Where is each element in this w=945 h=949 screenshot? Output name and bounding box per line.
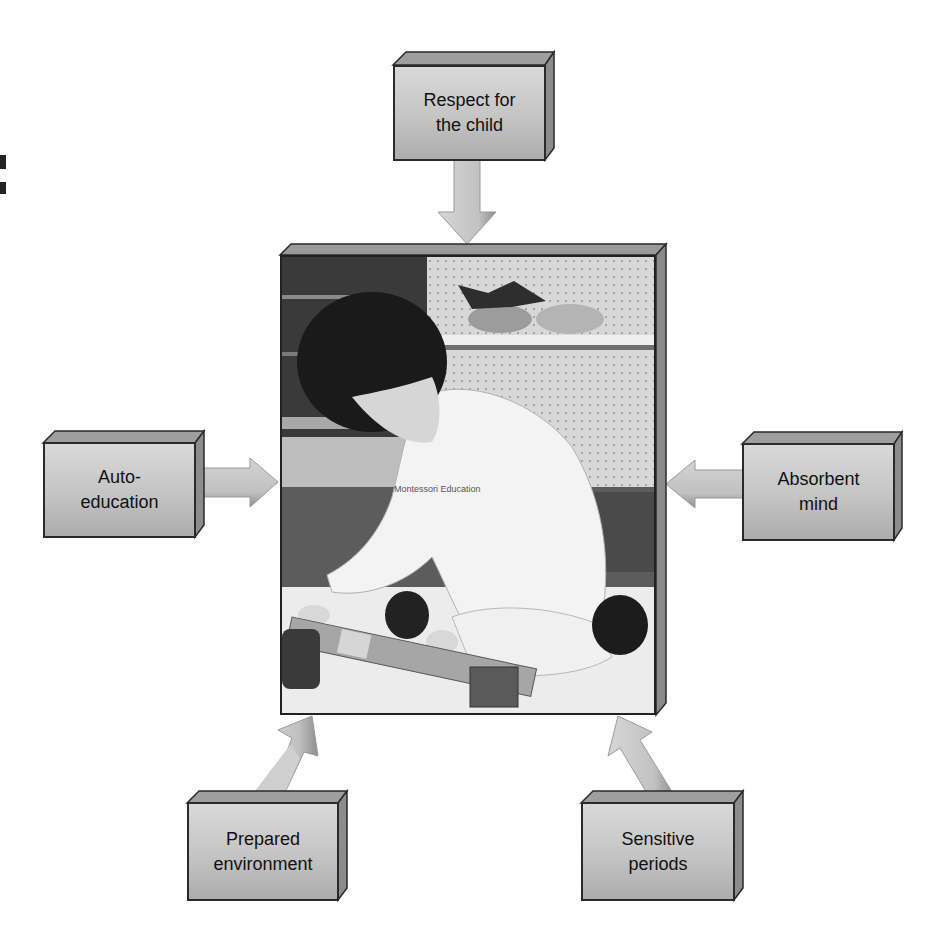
box-face: Auto- education: [43, 442, 196, 538]
photo-illustration: Montessori Education: [282, 257, 656, 715]
box-face: Sensitive periods: [581, 802, 735, 901]
box-label: Absorbent mind: [777, 467, 859, 517]
box-label: Auto- education: [80, 465, 158, 515]
box-label: Prepared environment: [213, 827, 312, 877]
box-face: Absorbent mind: [742, 443, 895, 541]
box-face: Prepared environment: [187, 802, 339, 901]
montessori-diagram: Montessori Education Respect for the chi…: [0, 0, 945, 949]
box-label: Sensitive periods: [621, 827, 694, 877]
box-face: Respect for the child: [393, 65, 546, 161]
shirt-text: Montessori Education: [394, 484, 481, 494]
child-with-blocks-photo: Montessori Education: [280, 255, 656, 715]
box-label: Respect for the child: [423, 88, 515, 138]
